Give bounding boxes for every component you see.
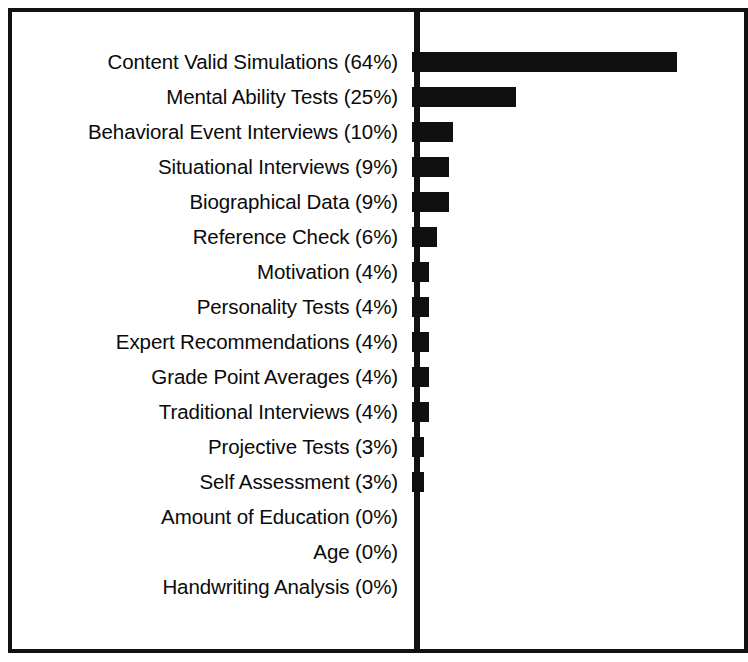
bar [412,87,516,107]
chart-row: Amount of Education (0%) [0,499,705,534]
bar-track [406,429,705,464]
bar-track [406,464,705,499]
chart-row: Mental Ability Tests (25%) [0,79,705,114]
category-label: Projective Tests (3%) [0,436,406,458]
bar-track [406,79,705,114]
chart-row: Handwriting Analysis (0%) [0,569,705,604]
category-label: Personality Tests (4%) [0,296,406,318]
bar-track [406,44,705,79]
bar-track [406,394,705,429]
category-label: Motivation (4%) [0,261,406,283]
category-label: Age (0%) [0,541,406,563]
bar-track [406,569,705,604]
category-label: Behavioral Event Interviews (10%) [0,121,406,143]
bar-track [406,219,705,254]
chart-row: Motivation (4%) [0,254,705,289]
bar-track [406,149,705,184]
bar-track [406,114,705,149]
bar-track [406,534,705,569]
category-label: Traditional Interviews (4%) [0,401,406,423]
category-label: Handwriting Analysis (0%) [0,576,406,598]
chart-row: Personality Tests (4%) [0,289,705,324]
chart-row: Biographical Data (9%) [0,184,705,219]
chart-row: Age (0%) [0,534,705,569]
bar [412,437,424,457]
category-label: Reference Check (6%) [0,226,406,248]
bar [412,472,424,492]
category-label: Situational Interviews (9%) [0,156,406,178]
bar [412,367,429,387]
category-label: Content Valid Simulations (64%) [0,51,406,73]
bar-track [406,499,705,534]
chart-row: Traditional Interviews (4%) [0,394,705,429]
bar [412,402,429,422]
bar-track [406,324,705,359]
bar-track [406,184,705,219]
bar [412,157,449,177]
bar-track [406,254,705,289]
bar [412,52,677,72]
category-label: Expert Recommendations (4%) [0,331,406,353]
bar [412,227,437,247]
bar-track [406,359,705,394]
chart-row: Content Valid Simulations (64%) [0,44,705,79]
bar [412,192,449,212]
chart-row: Situational Interviews (9%) [0,149,705,184]
category-label: Amount of Education (0%) [0,506,406,528]
bar [412,262,429,282]
category-label: Grade Point Averages (4%) [0,366,406,388]
chart-row: Reference Check (6%) [0,219,705,254]
bar-track [406,289,705,324]
category-label: Mental Ability Tests (25%) [0,86,406,108]
chart-row: Grade Point Averages (4%) [0,359,705,394]
bar [412,332,429,352]
category-label: Biographical Data (9%) [0,191,406,213]
bar [412,122,453,142]
chart-row: Expert Recommendations (4%) [0,324,705,359]
category-label: Self Assessment (3%) [0,471,406,493]
chart-row: Projective Tests (3%) [0,429,705,464]
bar [412,297,429,317]
chart-row: Self Assessment (3%) [0,464,705,499]
chart-row: Behavioral Event Interviews (10%) [0,114,705,149]
